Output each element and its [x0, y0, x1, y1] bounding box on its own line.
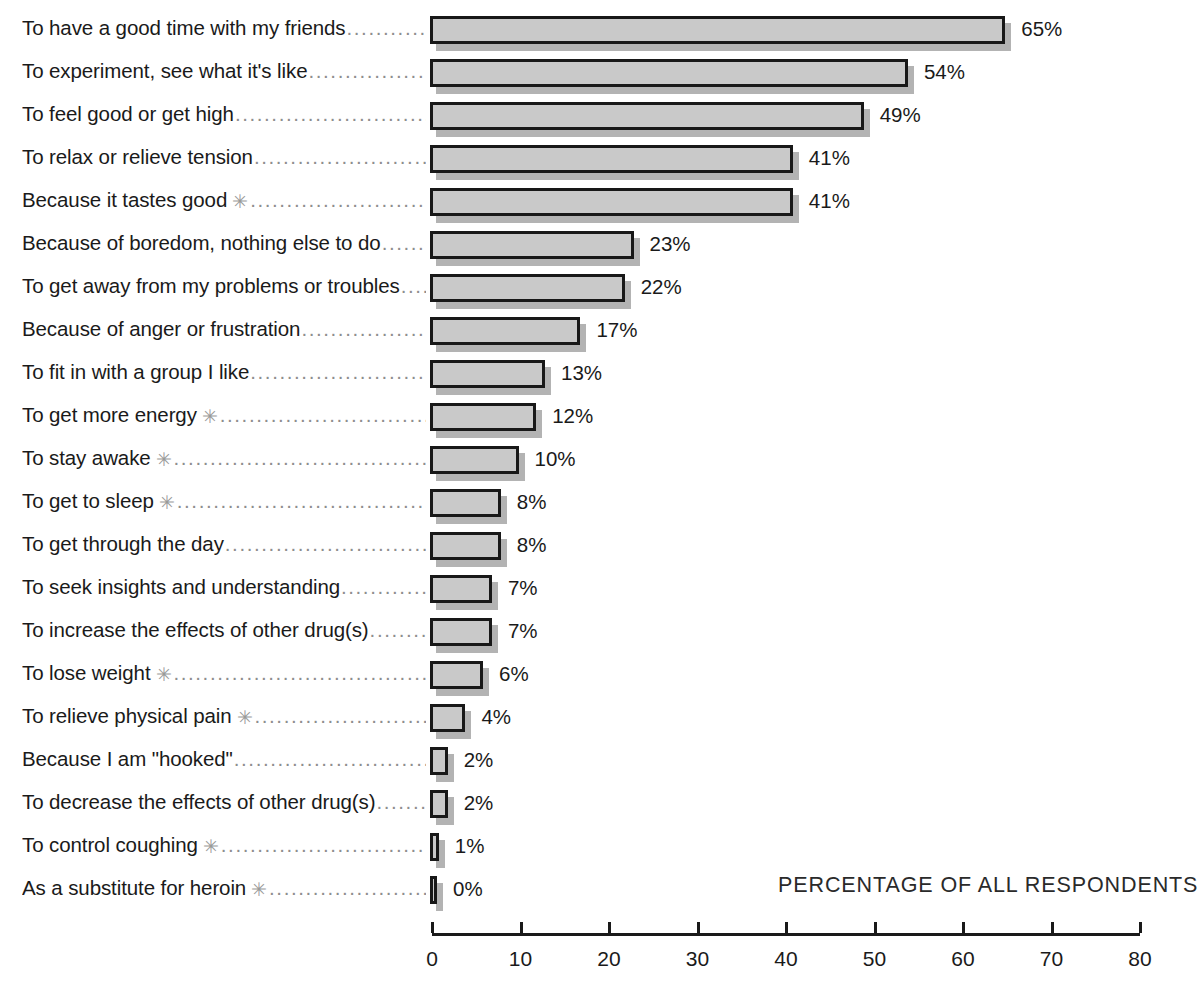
dot-leader: ........................................… [301, 317, 426, 341]
bar-value-label: 65% [1021, 17, 1062, 41]
axis-tick-label: 30 [686, 947, 709, 971]
footnote-asterisk-icon: ✳ [198, 837, 220, 856]
bar-row: To fit in with a group I like...........… [0, 360, 1173, 403]
category-label: To lose weight✳.........................… [22, 661, 426, 695]
category-label: Because it tastes good✳.................… [22, 188, 426, 222]
footnote-asterisk-icon: ✳ [154, 493, 176, 512]
category-label: To decrease the effects of other drug(s)… [22, 790, 426, 824]
axis-caption: PERCENTAGE OF ALL RESPONDENTS [778, 873, 1198, 898]
category-label-text: To get to sleep [22, 489, 154, 513]
bar-value-label: 8% [517, 490, 547, 514]
category-label: To control coughing✳....................… [22, 833, 426, 867]
bar-value-label: 13% [561, 361, 602, 385]
bar-fill [430, 661, 483, 689]
footnote-asterisk-icon: ✳ [197, 407, 219, 426]
category-label-text: To control coughing [22, 833, 198, 857]
dot-leader: ........................................… [401, 274, 426, 298]
bar-value-label: 41% [809, 146, 850, 170]
bar-row: To experiment, see what it's like.......… [0, 59, 1173, 102]
bar-fill [430, 790, 448, 818]
dot-leader: ........................................… [254, 704, 426, 728]
dot-leader: ........................................… [221, 833, 426, 857]
bar-fill [430, 876, 437, 904]
dot-leader: ........................................… [308, 59, 426, 83]
bar-fill [430, 575, 492, 603]
category-label-text: To lose weight [22, 661, 151, 685]
dot-leader: ........................................… [220, 403, 426, 427]
category-label: To seek insights and understanding......… [22, 575, 426, 609]
bar-row: To relieve physical pain✳...............… [0, 704, 1173, 747]
bar-value-label: 0% [453, 877, 483, 901]
category-label: To increase the effects of other drug(s)… [22, 618, 426, 652]
category-label-text: To increase the effects of other drug(s) [22, 618, 369, 642]
axis-tick [608, 922, 611, 933]
axis-tick-label: 0 [426, 947, 438, 971]
bar-value-label: 6% [499, 662, 529, 686]
category-label-text: To get through the day [22, 532, 224, 556]
category-label: To fit in with a group I like...........… [22, 360, 426, 394]
category-label-text: To get away from my problems or troubles [22, 274, 400, 298]
bar-row: To get through the day..................… [0, 532, 1173, 575]
footnote-asterisk-icon: ✳ [151, 450, 173, 469]
bar-value-label: 1% [455, 834, 485, 858]
bar-value-label: 4% [481, 705, 511, 729]
bar-fill [430, 274, 625, 302]
axis-tick [785, 922, 788, 933]
bar-fill [430, 403, 536, 431]
dot-leader: ........................................… [341, 575, 426, 599]
axis-line [432, 933, 1140, 936]
bar-row: To relax or relieve tension.............… [0, 145, 1173, 188]
x-axis: 01020304050607080 [0, 933, 1173, 997]
footnote-asterisk-icon: ✳ [227, 192, 249, 211]
axis-tick [431, 922, 434, 933]
bar-fill [430, 446, 519, 474]
category-label: To relieve physical pain✳...............… [22, 704, 426, 738]
bar-fill [430, 360, 545, 388]
bar-value-label: 12% [552, 404, 593, 428]
bar-value-label: 10% [535, 447, 576, 471]
category-label-text: Because of anger or frustration [22, 317, 300, 341]
bar-fill [430, 704, 465, 732]
bar-value-label: 2% [464, 748, 494, 772]
dot-leader: ........................................… [250, 360, 426, 384]
category-label-text: To relax or relieve tension [22, 145, 253, 169]
bar-row: Because of anger or frustration.........… [0, 317, 1173, 360]
dot-leader: ........................................… [269, 876, 426, 900]
bar-row: To decrease the effects of other drug(s)… [0, 790, 1173, 833]
dot-leader: ........................................… [234, 747, 426, 771]
axis-tick-label: 10 [509, 947, 532, 971]
category-label: To stay awake✳..........................… [22, 446, 426, 480]
category-label-text: To get more energy [22, 403, 197, 427]
category-label: To get through the day..................… [22, 532, 426, 566]
axis-tick-label: 70 [1040, 947, 1063, 971]
bar-value-label: 54% [924, 60, 965, 84]
dot-leader: ........................................… [370, 618, 426, 642]
category-label-text: To relieve physical pain [22, 704, 232, 728]
category-label-text: To fit in with a group I like [22, 360, 249, 384]
category-label: To experiment, see what it's like.......… [22, 59, 426, 93]
bar-value-label: 41% [809, 189, 850, 213]
category-label-text: To seek insights and understanding [22, 575, 340, 599]
bar-fill [430, 747, 448, 775]
axis-tick-label: 80 [1128, 947, 1151, 971]
axis-tick-label: 60 [951, 947, 974, 971]
bar-row: To stay awake✳..........................… [0, 446, 1173, 489]
axis-tick-label: 50 [863, 947, 886, 971]
bar-value-label: 8% [517, 533, 547, 557]
footnote-asterisk-icon: ✳ [246, 880, 268, 899]
bar-value-label: 7% [508, 619, 538, 643]
bar-value-label: 23% [650, 232, 691, 256]
bar-fill [430, 231, 634, 259]
dot-leader: ........................................… [382, 231, 426, 255]
axis-tick [1051, 922, 1054, 933]
dot-leader: ........................................… [225, 532, 426, 556]
category-label: To have a good time with my friends.....… [22, 16, 426, 50]
dot-leader: ........................................… [173, 661, 426, 685]
category-label-text: Because it tastes good [22, 188, 227, 212]
axis-tick [697, 922, 700, 933]
category-label-text: To feel good or get high [22, 102, 234, 126]
bar-value-label: 7% [508, 576, 538, 600]
bar-value-label: 49% [880, 103, 921, 127]
category-label: To feel good or get high................… [22, 102, 426, 136]
